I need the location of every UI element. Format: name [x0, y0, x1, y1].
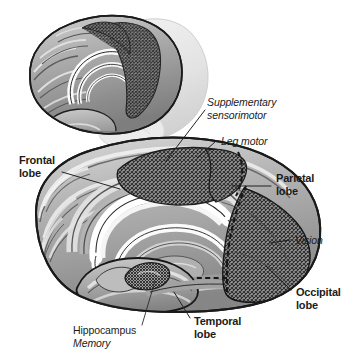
label-frontal-lobe-line2: lobe [19, 167, 41, 179]
label-leg-motor: Leg motor [221, 135, 268, 147]
label-hippocampus: Hippocampus [73, 324, 136, 336]
main-brain-medial-view [36, 138, 320, 314]
label-vision: Vision [295, 234, 323, 246]
label-frontal-lobe-line1: Frontal [19, 154, 55, 166]
label-temporal-lobe-line1: Temporal [194, 315, 241, 327]
label-parietal-lobe-line2: lobe [276, 185, 298, 197]
label-occipital-lobe-line1: Occipital [296, 286, 341, 298]
brain-diagram-svg: Supplementary sensorimotor Leg motor Fro… [0, 0, 360, 363]
brain-diagram-figure: Supplementary sensorimotor Leg motor Fro… [0, 0, 360, 363]
label-parietal-lobe-line1: Parietal [276, 172, 314, 184]
label-supplementary-sensorimotor-line1: Supplementary [207, 96, 277, 108]
label-memory: Memory [73, 337, 111, 349]
label-occipital-lobe-line2: lobe [296, 299, 318, 311]
label-supplementary-sensorimotor-line2: sensorimotor [207, 109, 267, 121]
label-temporal-lobe-line2: lobe [194, 328, 216, 340]
